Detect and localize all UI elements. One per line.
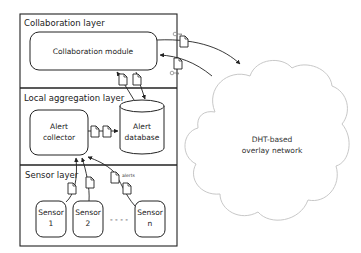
sensor-ellipsis: - - - - <box>110 215 128 224</box>
alert-database-line2: database <box>125 133 160 142</box>
key-icon <box>170 71 179 75</box>
document-icon <box>103 126 111 137</box>
document-icon <box>119 74 127 85</box>
architecture-diagram: DHT-based overlay network Collaboration … <box>0 0 361 253</box>
document-icon <box>180 36 188 47</box>
edge-overlay-to-collab <box>160 55 212 76</box>
sensor-2-line2: 2 <box>86 219 91 228</box>
document-icon <box>86 177 94 188</box>
alerts-annotation: alerts <box>122 173 135 178</box>
document-icon <box>91 126 99 137</box>
sensor-1-line1: Sensor <box>38 208 65 217</box>
alert-collector-line1: Alert <box>50 122 68 131</box>
alert-database-line1: Alert <box>133 122 151 131</box>
sensor-n-line1: Sensor <box>137 208 164 217</box>
overlay-label-line1: DHT-based <box>252 135 293 144</box>
sensor-layer-label: Sensor layer <box>25 170 79 180</box>
sensor-n-line2: n <box>148 219 153 228</box>
document-icon <box>123 183 131 194</box>
alert-collector-line2: collector <box>43 133 76 142</box>
edge-collab-to-overlay <box>157 40 240 64</box>
key-icon <box>173 32 182 36</box>
overlay-label-line2: overlay network <box>242 146 303 155</box>
document-icon <box>133 74 141 85</box>
collaboration-layer-label: Collaboration layer <box>24 18 105 28</box>
document-icon <box>68 183 76 194</box>
document-icon <box>111 172 119 183</box>
document-icon <box>174 58 182 69</box>
sensor-2-line1: Sensor <box>75 208 102 217</box>
aggregation-layer-label: Local aggregation layer <box>24 93 125 103</box>
collaboration-module-label: Collaboration module <box>53 47 134 56</box>
sensor-1-line2: 1 <box>49 219 54 228</box>
